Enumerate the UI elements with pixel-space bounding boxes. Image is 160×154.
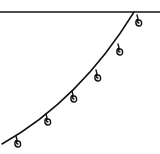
- loop-3: [95, 70, 101, 81]
- hanging-string: [2, 12, 134, 144]
- hanging-loops: [15, 15, 142, 147]
- loop-1: [136, 15, 142, 26]
- loop-5: [45, 114, 51, 125]
- loop-6: [15, 136, 21, 147]
- loop-2: [117, 44, 123, 55]
- drawing-svg: [0, 0, 160, 154]
- loop-4: [71, 91, 77, 102]
- line-drawing: [0, 0, 160, 154]
